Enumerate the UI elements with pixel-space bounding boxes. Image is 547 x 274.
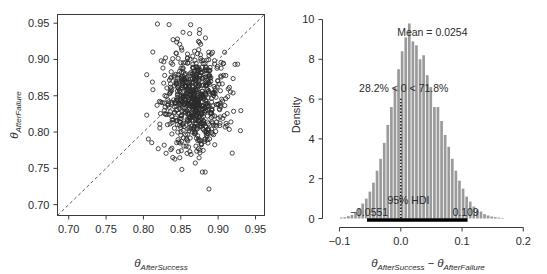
figure-root: 0.700.750.800.850.900.95 0.700.750.800.8… [0,0,547,274]
scatter-point [181,30,185,34]
scatter-x-tick-label: 0.90 [207,223,228,235]
scatter-point [203,36,207,40]
theta-subscript-x: AfterSuccess [140,263,188,272]
histogram-x-axis-title: θAfterSuccess − θAfterFailure [371,257,485,272]
histogram-bar [437,107,440,218]
scatter-point [155,22,159,26]
scatter-point [170,132,174,136]
scatter-y-tick-label: 0.95 [28,17,49,29]
identity-reference-line [58,15,265,216]
scatter-y-tick-label: 0.90 [28,53,49,65]
histogram-bar [494,217,497,218]
histogram-panel: −0.10.00.10.2 0246810 Mean = 0.0254 28.2… [280,0,547,274]
scatter-point [229,120,233,124]
scatter-point [213,143,217,147]
scatter-point [197,156,201,160]
scatter-point [228,90,232,94]
histogram-bar [498,218,501,219]
histogram-bar [480,212,483,219]
histogram-bar [490,217,493,219]
histogram-bar [444,135,447,219]
scatter-point [150,141,154,145]
scatter-point [203,170,207,174]
histogram-bar [440,121,443,219]
scatter-y-axis-title: θAfterFailure [8,91,23,139]
scatter-point [155,103,159,107]
histogram-y-tick-label: 0 [308,213,314,225]
scatter-point [161,66,165,70]
scatter-point-cloud [145,22,243,191]
scatter-point [196,39,200,43]
scatter-point [180,167,184,171]
scatter-point [159,59,163,63]
histogram-x-tick-label: 0.1 [454,235,469,247]
scatter-point [162,143,166,147]
scatter-x-tick-label: 0.70 [58,223,79,235]
scatter-panel: 0.700.750.800.850.900.95 0.700.750.800.8… [0,0,280,274]
scatter-x-tick-label: 0.95 [245,223,266,235]
scatter-point [164,151,168,155]
scatter-point [227,127,231,131]
hdi-low-label: −0.0551 [350,206,388,218]
histogram-y-tick-label: 2 [308,173,314,185]
scatter-point [169,70,173,74]
scatter-x-axis-title: θAfterSuccess [134,257,187,272]
theta-subscript-y: AfterFailure [14,91,23,134]
scatter-point [145,73,149,77]
scatter-x-tick-label: 0.85 [170,223,191,235]
scatter-x-tick-label: 0.75 [95,223,116,235]
histogram-bar-group [340,23,504,218]
zero-comparison-annotation: 28.2% < 0 < 71.8% [359,82,448,94]
histogram-bar [343,217,346,218]
scatter-y-tick-group: 0.700.750.800.850.900.95 [28,17,57,210]
histogram-y-tick-label: 6 [308,93,314,105]
histogram-x-tick-group: −0.10.00.10.2 [329,228,531,247]
mean-annotation: Mean = 0.0254 [397,26,468,38]
scatter-point [172,126,176,130]
scatter-point [207,187,211,191]
scatter-point [188,32,192,36]
theta-subscript-diff-1: AfterSuccess [376,263,424,272]
theta-subscript-diff-2: AfterFailure [442,263,485,272]
scatter-point [163,73,167,77]
scatter-point [156,147,160,151]
histogram-bar [483,214,486,218]
histogram-x-tick-label: 0.2 [516,235,531,247]
scatter-point [194,144,198,148]
scatter-point [163,56,167,60]
histogram-y-axis-title: Density [290,96,302,133]
histogram-bar [429,87,432,218]
scatter-y-tick-label: 0.75 [28,162,49,174]
histogram-bar [412,41,415,218]
scatter-point [146,137,150,141]
scatter-point [178,42,182,46]
histogram-x-tick-label: 0.0 [393,235,408,247]
histogram-bar [501,218,504,219]
histogram-svg: −0.10.00.10.2 0246810 Mean = 0.0254 28.2… [280,0,547,274]
scatter-point [192,49,196,53]
histogram-bar [433,107,436,218]
scatter-y-tick-label: 0.70 [28,199,49,211]
histogram-y-tick-label: 8 [308,53,314,65]
scatter-point [178,156,182,160]
scatter-y-tick-label: 0.80 [28,126,49,138]
scatter-point [150,80,154,84]
scatter-x-tick-label: 0.80 [133,223,154,235]
scatter-point [238,129,242,133]
scatter-x-tick-group: 0.700.750.800.850.900.95 [58,216,266,235]
scatter-point [165,123,169,127]
scatter-point [236,62,240,66]
minus-symbol: − [425,257,438,269]
histogram-y-tick-group: 0246810 [302,13,322,224]
scatter-point [168,110,172,114]
scatter-svg: 0.700.750.800.850.900.95 0.700.750.800.8… [0,0,280,274]
scatter-point [145,113,149,117]
hdi-high-label: 0.109 [452,206,478,218]
histogram-bar [487,216,490,219]
scatter-point [189,23,193,27]
scatter-point [218,89,222,93]
histogram-y-tick-label: 4 [308,133,314,145]
histogram-bar [408,23,411,218]
scatter-point [231,109,235,113]
histogram-bar [340,218,343,219]
